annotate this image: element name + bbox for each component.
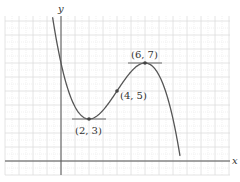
min-point-marker [87, 117, 91, 121]
x-axis-label: x [232, 155, 238, 166]
inflection-point-label: (4, 5) [120, 90, 147, 101]
cubic-curve [53, 17, 180, 156]
inflection-point-marker [115, 89, 119, 93]
y-axis-label: y [57, 3, 64, 14]
grid [5, 16, 230, 175]
max-point-marker [143, 61, 147, 65]
max-point-label: (6, 7) [131, 49, 158, 60]
cubic-function-chart: x y (2, 3) (4, 5) (6, 7) [0, 0, 240, 182]
min-point-label: (2, 3) [75, 125, 102, 136]
